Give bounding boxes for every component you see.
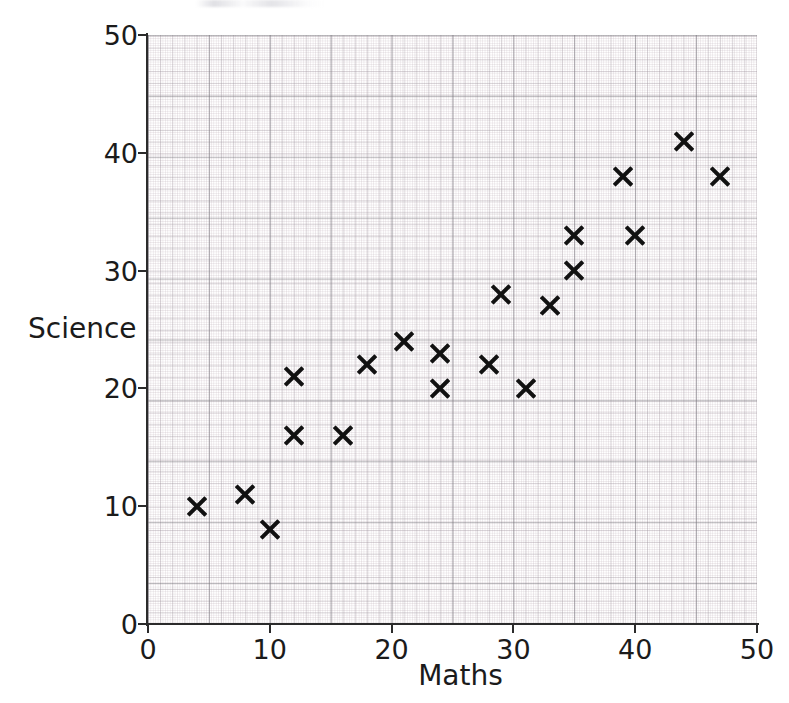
data-point-marker [562, 223, 586, 247]
y-tick-mark [138, 34, 147, 36]
data-point-marker [185, 494, 209, 518]
data-point-marker [477, 353, 501, 377]
data-point-marker [233, 482, 257, 506]
scan-artifact [196, 0, 326, 7]
y-tick-label: 40 [78, 139, 138, 166]
y-tick-label: 10 [78, 493, 138, 520]
data-point-marker [392, 329, 416, 353]
x-axis-title-text: Maths [418, 662, 503, 690]
data-point-marker [611, 164, 635, 188]
x-tick-mark [269, 624, 271, 633]
data-point-marker [672, 129, 696, 153]
y-tick-label: 30 [78, 257, 138, 284]
data-point-marker [258, 518, 282, 542]
y-axis-line [146, 33, 148, 626]
data-point-marker [514, 376, 538, 400]
x-axis-title: Maths [0, 662, 789, 690]
data-point-marker [538, 294, 562, 318]
x-tick-label: 0 [108, 636, 188, 663]
data-point-marker [708, 164, 732, 188]
y-axis-ticks: 01020304050 [70, 0, 138, 703]
x-axis-line [146, 623, 759, 625]
y-tick-mark [138, 270, 147, 272]
scatter-chart-figure: 01020304050 01020304050 Science Maths [0, 0, 789, 703]
data-point-marker [623, 223, 647, 247]
y-tick-label: 50 [78, 22, 138, 49]
data-point-marker [489, 282, 513, 306]
data-point-marker [355, 353, 379, 377]
data-point-marker [282, 365, 306, 389]
x-tick-mark [756, 624, 758, 633]
data-point-marker [562, 259, 586, 283]
x-tick-label: 50 [717, 636, 789, 663]
data-point-marker [282, 424, 306, 448]
x-tick-mark [512, 624, 514, 633]
y-tick-mark [138, 152, 147, 154]
x-tick-label: 40 [595, 636, 675, 663]
y-tick-label: 20 [78, 375, 138, 402]
data-point-marker [331, 424, 355, 448]
y-tick-mark [138, 387, 147, 389]
plot-grid-area [148, 35, 757, 624]
y-tick-mark [138, 505, 147, 507]
y-axis-title: Science [28, 315, 137, 343]
data-point-marker [428, 341, 452, 365]
x-tick-mark [391, 624, 393, 633]
y-tick-mark [138, 623, 147, 625]
x-tick-label: 10 [230, 636, 310, 663]
data-point-marker [428, 376, 452, 400]
x-tick-mark [634, 624, 636, 633]
y-tick-label: 0 [78, 611, 138, 638]
x-tick-mark [147, 624, 149, 633]
